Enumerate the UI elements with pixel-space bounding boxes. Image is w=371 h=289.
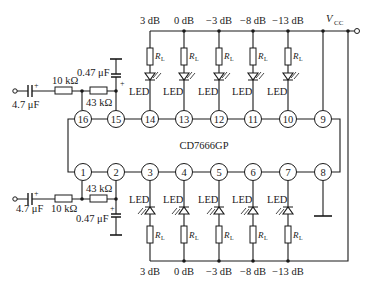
svg-text:−8 dB: −8 dB bbox=[240, 15, 266, 26]
resistor-icon bbox=[181, 48, 187, 65]
capacitor-icon bbox=[111, 74, 121, 77]
input-terminal bbox=[13, 89, 17, 93]
resistor-icon bbox=[216, 48, 222, 65]
svg-text:6: 6 bbox=[250, 167, 255, 178]
svg-text:0 dB: 0 dB bbox=[174, 15, 194, 26]
svg-text:LED: LED bbox=[129, 194, 150, 205]
vcc-subscript: CC bbox=[334, 19, 344, 27]
bottom-channel-4: R L LED bbox=[232, 181, 268, 261]
input-network-bottom: + 4.7 μF 10 kΩ 43 kΩ + 0.47 μF bbox=[13, 181, 122, 235]
resistor-icon bbox=[90, 195, 107, 202]
svg-text:8: 8 bbox=[320, 167, 325, 178]
svg-text:+: + bbox=[34, 189, 39, 198]
top-channel-2: R L LED bbox=[163, 31, 199, 110]
led-icon bbox=[145, 207, 155, 214]
svg-text:9: 9 bbox=[320, 114, 325, 125]
top-channel-4: R L LED bbox=[232, 31, 268, 110]
svg-text:L: L bbox=[161, 235, 165, 241]
svg-text:12: 12 bbox=[214, 114, 225, 125]
svg-text:R: R bbox=[154, 230, 161, 240]
pin-6: 6 bbox=[245, 164, 262, 181]
top-led-channels: R L LED R L LED R L LED R bbox=[129, 31, 303, 110]
pin-13: 13 bbox=[176, 111, 193, 128]
resistor-icon bbox=[285, 48, 291, 65]
svg-text:R: R bbox=[292, 51, 299, 61]
pin-16: 16 bbox=[75, 111, 92, 128]
svg-text:L: L bbox=[299, 56, 303, 62]
svg-text:10 kΩ: 10 kΩ bbox=[52, 75, 78, 86]
svg-text:4: 4 bbox=[181, 167, 187, 178]
svg-text:0 dB: 0 dB bbox=[174, 266, 194, 277]
svg-text:+: + bbox=[34, 81, 39, 90]
svg-text:−3 dB: −3 dB bbox=[206, 15, 232, 26]
svg-text:−13 dB: −13 dB bbox=[272, 15, 303, 26]
svg-text:L: L bbox=[264, 235, 268, 241]
svg-text:0.47 μF: 0.47 μF bbox=[76, 213, 109, 224]
input-network-top: + 4.7 μF 10 kΩ 43 kΩ + 0.47 μF bbox=[12, 59, 125, 110]
svg-text:LED: LED bbox=[198, 194, 219, 205]
resistor-icon bbox=[55, 87, 72, 94]
svg-text:3 dB: 3 dB bbox=[140, 266, 160, 277]
led-icon bbox=[214, 207, 224, 214]
svg-text:R: R bbox=[257, 230, 264, 240]
pin-8: 8 bbox=[315, 164, 332, 181]
svg-text:LED: LED bbox=[267, 194, 288, 205]
pin-7: 7 bbox=[280, 164, 297, 181]
resistor-icon bbox=[250, 48, 256, 65]
pin-10: 10 bbox=[280, 111, 297, 128]
svg-text:LED: LED bbox=[232, 86, 253, 97]
pin-11: 11 bbox=[245, 111, 262, 128]
resistor-icon bbox=[250, 226, 256, 243]
bottom-led-channels: R L LED R L LED R L LED R bbox=[129, 181, 303, 261]
bottom-level-labels: 3 dB 0 dB −3 dB −8 dB −13 dB bbox=[140, 266, 304, 277]
svg-text:1: 1 bbox=[80, 167, 85, 178]
led-icon bbox=[214, 73, 224, 80]
svg-text:R: R bbox=[223, 51, 230, 61]
svg-text:L: L bbox=[264, 56, 268, 62]
resistor-icon bbox=[90, 87, 107, 94]
svg-text:LED: LED bbox=[198, 86, 219, 97]
led-icon bbox=[283, 73, 293, 80]
svg-text:LED: LED bbox=[163, 86, 184, 97]
svg-text:15: 15 bbox=[111, 114, 122, 125]
svg-text:R: R bbox=[257, 51, 264, 61]
led-icon bbox=[248, 73, 258, 80]
bottom-channel-3: R L LED bbox=[198, 181, 234, 261]
chip-label: CD7666GP bbox=[179, 140, 228, 151]
svg-text:+: + bbox=[120, 79, 125, 88]
pin-3: 3 bbox=[142, 164, 159, 181]
svg-text:10 kΩ: 10 kΩ bbox=[51, 203, 77, 214]
bottom-channel-5: R L LED bbox=[267, 181, 303, 261]
resistor-icon bbox=[147, 48, 153, 65]
resistor-icon bbox=[181, 226, 187, 243]
pin-14: 14 bbox=[142, 111, 159, 128]
svg-text:5: 5 bbox=[216, 167, 221, 178]
svg-text:16: 16 bbox=[78, 114, 89, 125]
top-level-labels: 3 dB 0 dB −3 dB −8 dB −13 dB bbox=[140, 15, 304, 26]
capacitor-icon bbox=[111, 214, 121, 217]
svg-text:LED: LED bbox=[267, 86, 288, 97]
bottom-channel-1: R L LED bbox=[129, 181, 165, 261]
led-icon bbox=[283, 207, 293, 214]
svg-text:LED: LED bbox=[129, 86, 150, 97]
svg-text:L: L bbox=[299, 235, 303, 241]
svg-text:+: + bbox=[110, 204, 115, 213]
svg-text:−13 dB: −13 dB bbox=[272, 266, 303, 277]
svg-text:L: L bbox=[230, 56, 234, 62]
svg-text:7: 7 bbox=[285, 167, 290, 178]
resistor-icon bbox=[285, 226, 291, 243]
svg-text:4.7 μF: 4.7 μF bbox=[16, 203, 43, 214]
vcc-label: V bbox=[326, 13, 334, 24]
svg-text:14: 14 bbox=[145, 114, 156, 125]
resistor-icon bbox=[147, 226, 153, 243]
capacitor-icon bbox=[28, 85, 32, 97]
svg-text:R: R bbox=[188, 230, 195, 240]
svg-text:−3 dB: −3 dB bbox=[206, 266, 232, 277]
svg-text:11: 11 bbox=[248, 114, 258, 125]
svg-text:13: 13 bbox=[179, 114, 190, 125]
svg-text:R: R bbox=[188, 51, 195, 61]
svg-text:L: L bbox=[195, 56, 199, 62]
top-channel-3: R L LED bbox=[198, 31, 234, 110]
svg-text:43 kΩ: 43 kΩ bbox=[86, 97, 112, 108]
svg-text:4.7 μF: 4.7 μF bbox=[12, 99, 39, 110]
